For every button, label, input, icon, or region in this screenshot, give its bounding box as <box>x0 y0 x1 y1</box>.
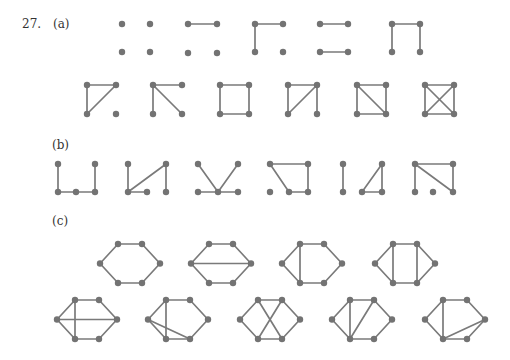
vertex <box>379 189 385 195</box>
vertex <box>84 82 90 88</box>
vertex <box>145 316 151 322</box>
edge <box>218 164 238 192</box>
vertex <box>317 49 323 55</box>
vertex <box>482 316 488 322</box>
vertex <box>450 161 456 167</box>
vertex <box>417 49 423 55</box>
vertex <box>217 111 223 117</box>
edge <box>240 320 258 340</box>
vertex <box>451 82 457 88</box>
graph-c-4 <box>372 241 438 286</box>
vertex <box>115 280 121 286</box>
edge <box>100 264 118 284</box>
graph-b-4 <box>267 161 311 195</box>
vertex <box>150 111 156 117</box>
vertex <box>230 241 236 247</box>
vertex <box>267 189 273 195</box>
vertex <box>345 21 351 27</box>
vertex <box>113 82 119 88</box>
vertex <box>125 161 131 167</box>
vertex <box>440 297 446 303</box>
vertex <box>354 82 360 88</box>
vertex <box>125 189 131 195</box>
vertex <box>252 21 258 27</box>
vertex <box>440 336 446 342</box>
graph-b-3 <box>195 161 241 195</box>
edge <box>148 320 190 340</box>
vertex <box>280 21 286 27</box>
vertex <box>383 82 389 88</box>
graph-figure <box>0 0 510 360</box>
vertex <box>430 189 436 195</box>
vertex <box>139 280 145 286</box>
edge <box>282 320 300 340</box>
vertex <box>417 21 423 27</box>
edge <box>425 300 443 320</box>
vertex <box>206 280 212 286</box>
edge <box>332 300 350 320</box>
vertex <box>115 241 121 247</box>
graph-c-5 <box>54 297 120 342</box>
edge <box>142 264 160 284</box>
graph-a-two-disjoint-edges <box>317 21 351 55</box>
vertex <box>139 241 145 247</box>
graph-c-2 <box>188 241 254 286</box>
vertex <box>84 111 90 117</box>
vertex <box>412 161 418 167</box>
edge <box>87 85 116 114</box>
edge <box>240 300 258 320</box>
edge <box>57 320 75 340</box>
vertex <box>297 316 303 322</box>
vertex <box>230 280 236 286</box>
vertex <box>185 21 191 27</box>
edge <box>153 85 182 114</box>
graph-c-7 <box>237 297 303 342</box>
vertex <box>187 297 193 303</box>
vertex <box>340 189 346 195</box>
graph-a-diamond <box>354 82 389 117</box>
vertex <box>305 189 311 195</box>
vertex <box>163 189 169 195</box>
vertex <box>96 297 102 303</box>
vertex <box>235 161 241 167</box>
edge <box>190 300 208 320</box>
edge <box>128 164 166 192</box>
edge <box>191 244 209 264</box>
vertex <box>246 111 252 117</box>
edge <box>198 164 218 192</box>
vertex <box>383 111 389 117</box>
vertex <box>54 316 60 322</box>
vertex <box>157 260 163 266</box>
vertex <box>114 316 120 322</box>
vertex <box>286 189 292 195</box>
edge <box>233 244 251 264</box>
edge <box>417 264 435 284</box>
vertex <box>195 189 201 195</box>
vertex <box>347 297 353 303</box>
vertex <box>279 260 285 266</box>
vertex <box>285 111 291 117</box>
graph-a-paw <box>285 82 320 117</box>
vertex <box>237 316 243 322</box>
vertex <box>285 82 291 88</box>
vertex <box>329 316 335 322</box>
vertex <box>450 189 456 195</box>
vertex <box>252 49 258 55</box>
vertex <box>255 297 261 303</box>
vertex <box>389 21 395 27</box>
vertex <box>163 297 169 303</box>
vertex <box>255 336 261 342</box>
edge <box>350 300 374 339</box>
vertex <box>113 111 119 117</box>
edge <box>190 320 208 340</box>
edge <box>282 244 300 264</box>
vertex <box>464 336 470 342</box>
graph-a-empty <box>119 21 153 55</box>
vertex <box>163 161 169 167</box>
graph-a-path-3 <box>389 21 423 55</box>
vertex <box>432 260 438 266</box>
vertex <box>215 189 221 195</box>
vertex <box>422 82 428 88</box>
vertex <box>389 316 395 322</box>
edge <box>148 300 166 320</box>
